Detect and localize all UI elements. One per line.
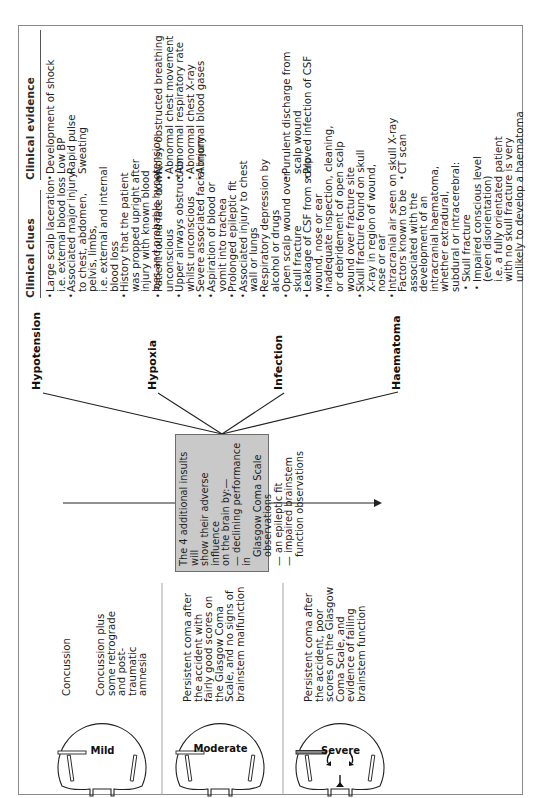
severity-label-mild: Mild xyxy=(91,745,115,756)
mild-description-2: Concussion plus some retrograde and post… xyxy=(96,606,149,696)
herniation-arrow-icon xyxy=(336,782,344,787)
box-item-cont: observations xyxy=(263,440,274,566)
evidence-infection: Purulent discharge fromscalp wound Prove… xyxy=(282,52,314,180)
header-rule-clues xyxy=(40,190,41,298)
line-hypoxia xyxy=(158,393,222,434)
insult-label-haematoma: Haematoma xyxy=(390,315,403,390)
arrowhead-icon xyxy=(374,499,382,507)
evidence-hypotension: Development of shock Low BP Rapid pulse … xyxy=(46,60,88,180)
line-infection xyxy=(222,393,284,434)
clue-item: Respiratory depression byalcohol or drug… xyxy=(260,136,281,298)
clues-haematoma-intro: Factors known to be associated with the … xyxy=(398,162,462,292)
line-hypotension xyxy=(43,393,222,434)
insult-label-hypotension: Hypotension xyxy=(30,312,43,390)
box-item: — declining performance in xyxy=(232,440,253,566)
clues-haematoma: Skull fracture Impaired conscious level(… xyxy=(462,111,526,298)
box-item-cont: function observations xyxy=(295,440,306,566)
clue-item: Associated injury to chestwall or lungs xyxy=(239,136,260,298)
header-clinical-evidence: Clinical evidence xyxy=(24,77,36,180)
evidence-item: CT scan xyxy=(398,134,409,180)
evidence-item: Sweating xyxy=(78,60,89,180)
line-haematoma xyxy=(222,392,398,434)
clue-item: Skull fracture xyxy=(462,111,473,298)
clue-item: Aspiration of blood orvomit into trachea xyxy=(207,136,228,298)
insult-label-hypoxia: Hypoxia xyxy=(146,340,159,390)
severity-label-moderate: Moderate xyxy=(193,743,247,754)
rotated-page: Mild Moderate Severe Concussion Concussi… xyxy=(0,0,533,798)
evidence-item: Purulent discharge fromscalp wound xyxy=(282,52,303,180)
evidence-item: Abnormal blood gases xyxy=(196,35,207,180)
clue-item: Skull fracture found on skullX-ray in re… xyxy=(356,118,388,298)
evidence-item: Proved infection of CSF xyxy=(303,52,314,180)
evidence-hypoxia: Noisy obstructed breathing Abnormal ches… xyxy=(154,35,207,180)
moderate-description: Persistent coma after the accident with … xyxy=(183,586,247,702)
header-clinical-clues: Clinical clues xyxy=(24,218,36,298)
insult-label-infection: Infection xyxy=(272,335,285,390)
clue-item: Inadequate inspection, cleaning,or debri… xyxy=(324,118,356,298)
severe-description: Persistent coma after the accident, poor… xyxy=(304,586,368,702)
head-icon-mild xyxy=(58,724,146,796)
severity-label-severe: Severe xyxy=(321,745,360,756)
clue-item: Impaired conscious level(even disorienta… xyxy=(473,111,526,298)
box-item: — impaired brainstem xyxy=(284,440,295,566)
box-line: The 4 additional insults will xyxy=(179,440,200,566)
head-icon-severe xyxy=(296,724,384,796)
evidence-haematoma: CT scan xyxy=(398,134,409,180)
mild-description-1: Concussion xyxy=(62,638,73,696)
evidence-item: Noisy obstructed breathing xyxy=(154,35,165,180)
box-line: on the brain by:— xyxy=(221,440,232,566)
central-summary-box: The 4 additional insults will show their… xyxy=(175,434,269,572)
box-line: show their adverse influence xyxy=(200,440,221,566)
header-rule-evidence xyxy=(40,30,41,180)
head-icon-moderate xyxy=(176,724,264,796)
evidence-item: Development of shock xyxy=(46,60,57,180)
